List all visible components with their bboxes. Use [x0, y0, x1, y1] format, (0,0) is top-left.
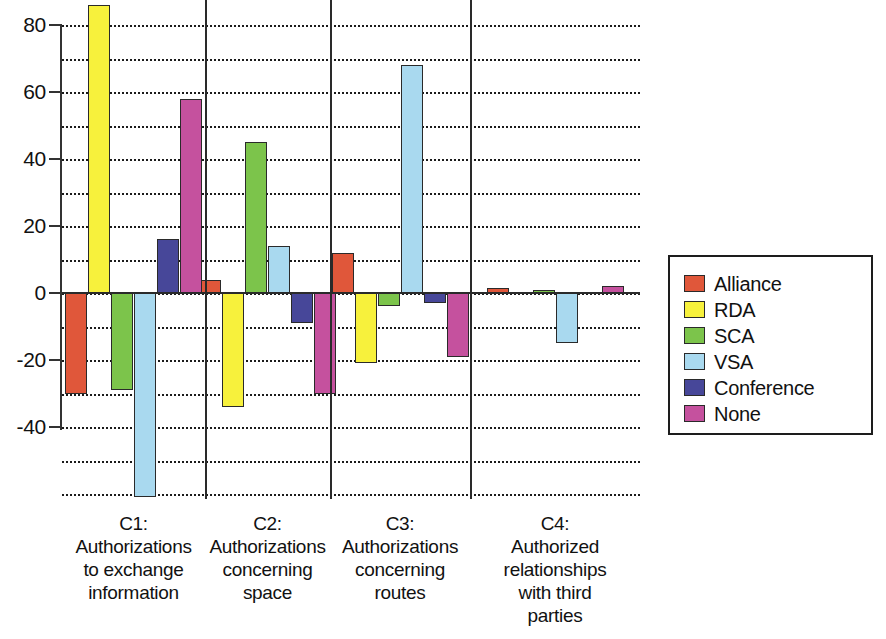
bar	[424, 293, 446, 303]
legend-label: Alliance	[714, 273, 782, 295]
bar	[199, 280, 221, 293]
legend-label: SCA	[714, 325, 754, 347]
bar	[245, 142, 267, 293]
x-axis-category-label-line: Authorizations	[330, 535, 470, 558]
gridline	[62, 25, 640, 27]
x-axis-category-label: C1:Authorizationsto exchangeinformation	[62, 512, 205, 604]
x-axis-category-label-line: C3:	[330, 512, 470, 535]
gridline	[62, 59, 640, 61]
x-axis-category-label-line: routes	[330, 581, 470, 604]
legend-label: VSA	[714, 351, 753, 373]
legend-swatch-icon	[684, 327, 705, 344]
group-separator	[330, 0, 332, 499]
y-axis-tick-mark	[49, 91, 62, 93]
plot-area	[62, 0, 640, 499]
x-axis-category-label-line: C2:	[205, 512, 330, 535]
y-axis-tick-label: -40	[0, 416, 46, 437]
bar	[222, 293, 244, 407]
bar	[157, 239, 179, 293]
x-axis-category-label-line: Authorizations	[62, 535, 205, 558]
y-axis-tick-label: 0	[0, 282, 46, 303]
bar	[65, 293, 87, 394]
gridline	[62, 226, 640, 228]
x-axis-category-label: C2:Authorizationsconcerningspace	[205, 512, 330, 604]
x-axis-category-label-line: concerning	[330, 558, 470, 581]
y-axis-tick-mark	[49, 426, 62, 428]
x-axis-category-label-line: Authorized	[470, 535, 640, 558]
bar	[268, 246, 290, 293]
y-axis-tick-label: 40	[0, 148, 46, 169]
y-axis-tick-label: 20	[0, 215, 46, 236]
legend-swatch-icon	[684, 353, 705, 370]
x-axis-category-labels: C1:Authorizationsto exchangeinformationC…	[55, 512, 655, 639]
legend-item[interactable]: Conference	[684, 375, 871, 400]
y-axis-tick-label: -20	[0, 349, 46, 370]
gridline	[62, 92, 640, 94]
grouped-bar-chart: 806040200-20-40 C1:Authorizationsto exch…	[0, 0, 886, 639]
legend-label: RDA	[714, 299, 755, 321]
legend-swatch-icon	[684, 301, 705, 318]
legend-swatch-icon	[684, 405, 705, 422]
legend: AllianceRDASCAVSAConferenceNone	[668, 255, 873, 435]
legend-item[interactable]: None	[684, 401, 871, 426]
x-axis-category-label-line: C4:	[470, 512, 640, 535]
bar	[401, 65, 423, 293]
x-axis-category-label: C3:Authorizationsconcerningroutes	[330, 512, 470, 604]
bar	[602, 286, 624, 293]
bar	[378, 293, 400, 306]
x-axis-category-label-line: information	[62, 581, 205, 604]
bar	[291, 293, 313, 323]
legend-label: Conference	[714, 377, 814, 399]
legend-item[interactable]: VSA	[684, 349, 871, 374]
x-axis-category-label-line: concerning	[205, 558, 330, 581]
x-axis-category-label-line: to exchange	[62, 558, 205, 581]
group-separator	[205, 0, 207, 499]
bar	[88, 5, 110, 293]
gridline	[62, 126, 640, 128]
gridline	[62, 193, 640, 195]
x-axis-category-label-line: relationships	[470, 558, 640, 581]
x-axis-category-label-line: parties	[470, 604, 640, 627]
bar	[111, 293, 133, 390]
bar	[180, 99, 202, 293]
legend-label: None	[714, 403, 761, 425]
y-axis-tick-label: 60	[0, 81, 46, 102]
x-axis-category-label-line: space	[205, 581, 330, 604]
bar	[314, 293, 336, 394]
bar	[355, 293, 377, 363]
group-separator	[470, 0, 472, 499]
legend-swatch-icon	[684, 379, 705, 396]
x-axis-category-label: C4:Authorizedrelationshipswith thirdpart…	[470, 512, 640, 627]
legend-item[interactable]: SCA	[684, 323, 871, 348]
y-axis-tick-mark	[49, 225, 62, 227]
bar	[487, 288, 509, 293]
bar	[447, 293, 469, 357]
y-axis-tick-labels: 806040200-20-40	[0, 0, 46, 500]
bar	[556, 293, 578, 343]
x-axis-category-label-line: C1:	[62, 512, 205, 535]
bar	[332, 253, 354, 293]
x-axis-category-label-line: with third	[470, 581, 640, 604]
y-axis-tick-mark	[49, 359, 62, 361]
y-axis-tick-label: 80	[0, 14, 46, 35]
legend-swatch-icon	[684, 275, 705, 292]
bar	[533, 290, 555, 293]
legend-item[interactable]: Alliance	[684, 271, 871, 296]
bar	[134, 293, 156, 497]
y-axis-tick-mark	[49, 158, 62, 160]
y-axis-tick-mark	[49, 24, 62, 26]
gridline	[62, 159, 640, 161]
x-axis-category-label-line: Authorizations	[205, 535, 330, 558]
y-axis-tick-mark	[49, 292, 62, 294]
legend-item[interactable]: RDA	[684, 297, 871, 322]
